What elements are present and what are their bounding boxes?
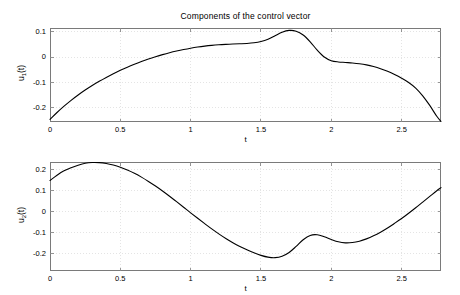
x-tick-label: 1 — [176, 274, 206, 283]
y-tick-label: 0.2 — [16, 165, 46, 174]
x-tick-label: 2.5 — [387, 125, 417, 134]
x-tick-label: 1.5 — [246, 125, 276, 134]
x-tick-label: 0.5 — [105, 274, 135, 283]
y-tick-label: -0.1 — [16, 228, 46, 237]
x-tick-label: 2 — [316, 125, 346, 134]
y-tick-label: -0.2 — [16, 103, 46, 112]
y-axis-label-base: u — [16, 218, 26, 223]
x-tick-label: 1 — [176, 125, 206, 134]
x-tick-label: 0 — [35, 125, 65, 134]
y-tick-label: 0 — [16, 52, 46, 61]
x-tick-label: 1.5 — [246, 274, 276, 283]
plot-canvas-u2 — [0, 0, 460, 295]
data-series-u2 — [50, 162, 441, 257]
x-tick-label: 0 — [35, 274, 65, 283]
figure-canvas: Components of the control vector u1(t) t… — [0, 0, 460, 295]
y-tick-label: -0.1 — [16, 78, 46, 87]
x-tick-label: 0.5 — [105, 125, 135, 134]
y-tick-label: 0.1 — [16, 186, 46, 195]
x-tick-label: 2.5 — [387, 274, 417, 283]
x-axis-label-u2: t — [226, 284, 266, 293]
x-tick-label: 2 — [316, 274, 346, 283]
y-tick-label: 0.1 — [16, 27, 46, 36]
y-tick-label: -0.2 — [16, 249, 46, 258]
y-tick-label: 0 — [16, 207, 46, 216]
